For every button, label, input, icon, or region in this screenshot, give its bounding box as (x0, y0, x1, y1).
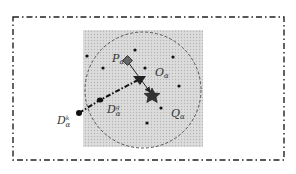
label-dg: Dgα (106, 103, 121, 118)
dg-dot-marker (97, 98, 103, 103)
shaded-region (83, 30, 203, 147)
label-dk: Dkα (56, 114, 70, 129)
dk-dot-marker (76, 110, 82, 116)
diagram: Pα Oα Qα Dgα Dkα (0, 0, 296, 174)
